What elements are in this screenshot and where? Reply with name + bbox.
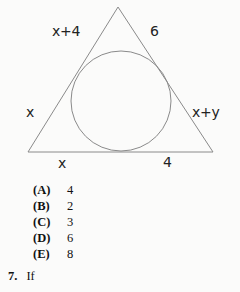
- choice-value: 3: [67, 215, 73, 230]
- label-base-right: 4: [163, 155, 172, 169]
- choice-letter: (C): [33, 215, 67, 230]
- choice-letter: (E): [33, 247, 67, 262]
- label-base-left: x: [58, 156, 66, 170]
- answer-choice-b[interactable]: (B) 2: [0, 199, 240, 215]
- choice-value: 6: [67, 231, 73, 246]
- answer-choice-e[interactable]: (E) 8: [0, 247, 240, 263]
- next-question-stem: 7. If: [0, 269, 35, 284]
- inscribed-circle: [71, 51, 171, 151]
- choice-letter: (A): [33, 183, 67, 198]
- question-text: If: [26, 269, 34, 284]
- choice-letter: (B): [33, 199, 67, 214]
- choice-letter: (D): [33, 231, 67, 246]
- choice-value: 4: [67, 183, 73, 198]
- answer-choice-a[interactable]: (A) 4: [0, 183, 240, 199]
- choice-value: 2: [67, 199, 73, 214]
- label-lower-left-side: x: [26, 105, 34, 119]
- page: x+4 6 x x+y x 4 (A) 4 (B) 2 (C) 3 (D) 6 …: [0, 0, 240, 292]
- geometry-figure: x+4 6 x x+y x 4: [0, 0, 240, 170]
- label-upper-left-side: x+4: [52, 24, 80, 38]
- answer-choice-c[interactable]: (C) 3: [0, 215, 240, 231]
- answer-choice-d[interactable]: (D) 6: [0, 231, 240, 247]
- question-number: 7.: [8, 269, 17, 284]
- triangle-circle-svg: [0, 0, 240, 170]
- label-upper-right-side: 6: [150, 24, 159, 38]
- answer-choice-list: (A) 4 (B) 2 (C) 3 (D) 6 (E) 8: [0, 183, 240, 263]
- choice-value: 8: [67, 247, 73, 262]
- label-lower-right-side: x+y: [192, 105, 220, 119]
